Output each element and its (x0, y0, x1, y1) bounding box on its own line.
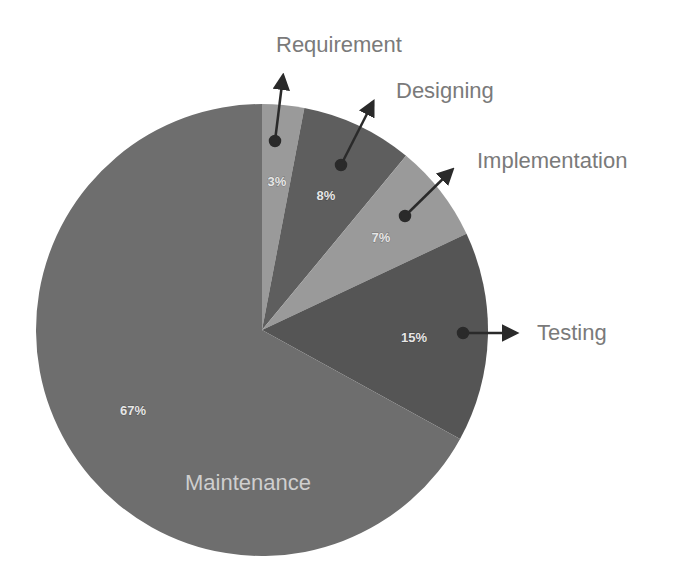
arrow-dot-testing (458, 328, 468, 338)
percent-maintenance: 67% (120, 403, 146, 418)
percent-implementation: 7% (372, 230, 391, 245)
label-maintenance: Maintenance (185, 470, 311, 495)
percent-testing: 15% (401, 330, 427, 345)
label-implementation: Implementation (477, 148, 627, 173)
percent-designing: 8% (317, 188, 336, 203)
percent-requirement: 3% (268, 174, 287, 189)
arrow-dot-implementation (400, 211, 410, 221)
label-testing: Testing (537, 320, 607, 345)
label-requirement: Requirement (276, 32, 402, 57)
arrow-dot-requirement (270, 136, 280, 146)
label-designing: Designing (396, 78, 494, 103)
pie-chart: 3% 8% 7% 15% 67% Requirement Designing I… (0, 0, 688, 587)
arrow-dot-designing (336, 160, 346, 170)
